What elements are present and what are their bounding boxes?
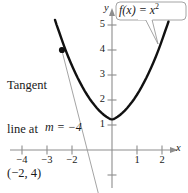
function-label-text: f(x) = x bbox=[119, 3, 155, 17]
tangent-annotation: Tangent line at (−2, 4) bbox=[7, 48, 47, 193]
slope-label: m = −4 bbox=[45, 120, 82, 134]
y-axis bbox=[108, 8, 117, 188]
y-tick-label-4: 4 bbox=[93, 43, 105, 54]
y-tick-label-1: 1 bbox=[93, 118, 105, 129]
tangent-annotation-line-2: line at bbox=[7, 122, 47, 137]
x-tick-label--2: −2 bbox=[63, 154, 81, 165]
function-label: f(x) = x2 bbox=[119, 3, 159, 17]
y-axis-label: y bbox=[104, 2, 109, 14]
y-tick-label-5: 5 bbox=[93, 18, 105, 29]
function-label-exponent: 2 bbox=[155, 2, 159, 11]
tangent-annotation-line-1: Tangent bbox=[7, 78, 47, 93]
x-axis-label: x bbox=[176, 142, 181, 154]
x-tick-label-1: 1 bbox=[128, 154, 146, 165]
tangent-annotation-line-3: (−2, 4) bbox=[7, 166, 47, 181]
y-tick-label-3: 3 bbox=[93, 68, 105, 79]
tangency-point bbox=[59, 47, 65, 53]
x-tick-label-2: 2 bbox=[153, 154, 171, 165]
math-figure: −4 −3 −2 1 2 5 4 3 2 1 x y Tangent line … bbox=[0, 0, 188, 193]
y-tick-label-2: 2 bbox=[93, 93, 105, 104]
